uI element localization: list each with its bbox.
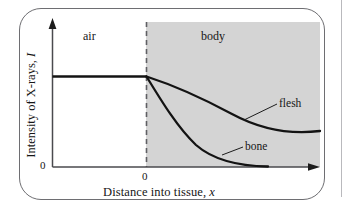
curve-label-bone: bone (245, 141, 267, 153)
x-axis-title: Distance into tissue, x (103, 186, 215, 199)
xray-attenuation-figure: air body flesh bone 0 0 Distance into ti… (0, 0, 355, 211)
curve-label-flesh: flesh (279, 98, 301, 110)
y-axis-arrowhead-icon (49, 18, 57, 29)
x-axis-title-symbol: x (209, 185, 215, 199)
body-region-shading (146, 22, 320, 167)
y-axis-title-text: Intensity of X-rays, (24, 57, 38, 158)
y-axis-tick-label-zero: 0 (40, 160, 46, 171)
y-axis-title: Intensity of X-rays, I (25, 30, 38, 180)
region-label-air: air (83, 30, 96, 42)
chart-graphics (0, 0, 355, 211)
y-axis-title-symbol: I (24, 53, 38, 57)
x-axis-title-text: Distance into tissue, (103, 185, 209, 199)
x-axis-tick-label-zero: 0 (142, 171, 148, 182)
region-label-body: body (201, 30, 225, 42)
